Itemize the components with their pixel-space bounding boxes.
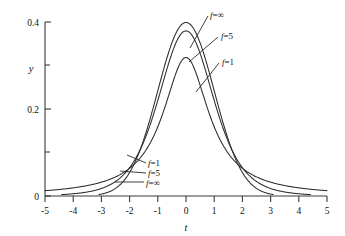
y-axis-label: y bbox=[28, 63, 34, 74]
callout-top-f-inf-value: =∞ bbox=[213, 10, 225, 20]
callout-tail-f-inf: f=∞ bbox=[146, 178, 160, 188]
callout-tail-f-1: f=1 bbox=[148, 158, 160, 168]
x-tick-label-3: 3 bbox=[268, 206, 273, 216]
callout-tail-f-1-value: =1 bbox=[151, 158, 161, 168]
x-tick-label-2: 2 bbox=[240, 206, 245, 216]
x-tick-label--3: -3 bbox=[97, 206, 105, 216]
x-tick-label--5: -5 bbox=[41, 206, 49, 216]
callout-tail-f-5-value: =5 bbox=[151, 168, 161, 178]
callout-top-f-1: f=1 bbox=[222, 57, 234, 67]
x-tick-label-0: 0 bbox=[184, 206, 189, 216]
callout-top-f-5: f=5 bbox=[221, 31, 234, 41]
callout-top-f-1-value: =1 bbox=[225, 57, 235, 67]
y-tick-label-0: 0 bbox=[34, 192, 39, 202]
t-distribution-plot: 0.4 0.2 0 -5 -4 -3 -2 -1 0 1 2 3 4 5 y t… bbox=[0, 0, 345, 236]
x-tick-label--4: -4 bbox=[69, 206, 77, 216]
y-tick-label-0.2: 0.2 bbox=[27, 105, 39, 115]
x-tick-label-1: 1 bbox=[212, 206, 217, 216]
callout-tail-f-inf-value: =∞ bbox=[149, 178, 161, 188]
x-tick-label--2: -2 bbox=[126, 206, 134, 216]
x-tick-label-5: 5 bbox=[325, 206, 330, 216]
callout-top-f-inf: f=∞ bbox=[210, 10, 224, 20]
callout-tail-f-5: f=5 bbox=[148, 168, 161, 178]
x-tick-label--1: -1 bbox=[154, 206, 162, 216]
plot-background bbox=[0, 0, 345, 236]
y-tick-label-0.4: 0.4 bbox=[27, 18, 39, 28]
callout-top-f-5-value: =5 bbox=[224, 31, 234, 41]
x-tick-label-4: 4 bbox=[296, 206, 301, 216]
chart-figure: 0.4 0.2 0 -5 -4 -3 -2 -1 0 1 2 3 4 5 y t… bbox=[0, 0, 345, 236]
